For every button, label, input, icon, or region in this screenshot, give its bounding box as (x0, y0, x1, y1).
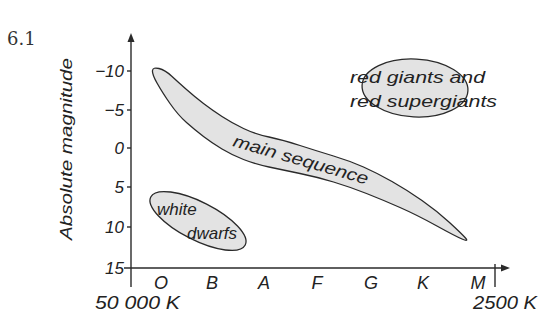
red-giants-label-line2: red supergiants (350, 92, 498, 111)
x-axis-arrow-icon (501, 265, 510, 272)
spectral-class-f: F (312, 273, 324, 293)
y-axis-label: Absolute magnitude (57, 58, 76, 241)
spectral-class-m: M (471, 273, 486, 293)
temperature-left-label: 50 000 K (95, 293, 181, 313)
y-tick-label: −5 (105, 101, 125, 120)
red-giants-label-line1: red giants and (350, 68, 486, 87)
spectral-class-k: K (417, 273, 430, 293)
white-dwarfs-label-line2: dwarfs (187, 224, 238, 243)
hr-diagram: 6.1 Absolute magnitude −10 −5 0 5 10 15 … (0, 0, 541, 319)
y-tick-label: 5 (115, 178, 125, 197)
y-axis-arrow-icon (128, 33, 135, 42)
spectral-class-b: B (206, 273, 218, 293)
y-tick-label: 10 (105, 218, 124, 237)
y-axis-ticks: −10 −5 0 5 10 15 (95, 62, 131, 278)
figure-number: 6.1 (7, 28, 36, 49)
white-dwarfs-label-line1: white (157, 200, 197, 219)
spectral-class-labels: O B A F G K M (154, 273, 486, 293)
spectral-class-o: O (154, 273, 168, 293)
spectral-class-g: G (364, 273, 378, 293)
y-tick-label: −10 (95, 62, 124, 81)
spectral-class-a: A (257, 273, 270, 293)
y-tick-label: 0 (115, 139, 125, 158)
white-dwarfs-region (142, 180, 254, 262)
temperature-right-label: 2500 K (472, 293, 538, 313)
y-tick-label: 15 (105, 259, 124, 278)
